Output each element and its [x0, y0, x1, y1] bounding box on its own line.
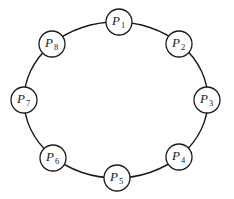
- node-label: P: [109, 169, 118, 184]
- node-group: P1P2P3P4P5P6P7P8: [11, 9, 220, 191]
- node-p3: P3: [194, 87, 220, 113]
- node-label: P: [45, 149, 54, 164]
- node-subscript: 8: [54, 42, 58, 52]
- node-label: P: [199, 91, 208, 106]
- node-label: P: [44, 35, 53, 50]
- node-p8: P8: [39, 31, 65, 57]
- node-subscript: 2: [181, 42, 185, 52]
- ring-diagram: P1P2P3P4P5P6P7P8: [0, 0, 234, 199]
- node-subscript: 3: [209, 98, 213, 108]
- node-p5: P5: [104, 165, 130, 191]
- node-label: P: [171, 148, 180, 163]
- node-label: P: [171, 35, 180, 50]
- node-p4: P4: [166, 144, 192, 170]
- node-label: P: [111, 13, 120, 28]
- node-subscript: 6: [55, 156, 59, 166]
- node-p6: P6: [40, 145, 66, 171]
- node-subscript: 5: [119, 176, 123, 186]
- node-label: P: [16, 91, 25, 106]
- node-subscript: 7: [26, 98, 30, 108]
- node-p1: P1: [106, 9, 132, 35]
- node-subscript: 1: [121, 20, 125, 30]
- node-p2: P2: [166, 31, 192, 57]
- node-p7: P7: [11, 87, 37, 113]
